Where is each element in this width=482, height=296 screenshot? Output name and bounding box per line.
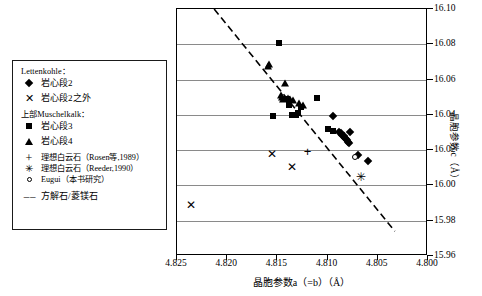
x-axis-tick-label: 4.825 (165, 258, 186, 268)
legend-entry-yanxinduan2: 岩心段2 (13, 77, 166, 89)
y-axis-tick-label: 16.10 (434, 3, 455, 13)
x-axis-tick-label: 4.800 (416, 258, 437, 268)
y-axis-tick (427, 184, 433, 185)
open-circle-icon (21, 177, 37, 182)
legend-group-header-lettenkohle: Lettenkohle： (13, 66, 166, 77)
x-axis-title: 晶胞参数a（=b）（Å） (176, 274, 427, 289)
star-icon: ✳ (21, 165, 37, 173)
chart-legend: Lettenkohle： 岩心段2 ✕ 岩心段2之外 上部Muschelkalk… (12, 60, 167, 230)
legend-label: 理想白云石（Reeder,1990） (37, 163, 138, 174)
legend-label: Eugui（本书研究） (37, 174, 109, 185)
x-axis-tick-label: 4.815 (266, 258, 287, 268)
legend-label: 理想白云石（Rosen等,1989） (37, 152, 144, 163)
y-axis-tick-label: 15.98 (434, 215, 455, 225)
x-mark-icon: ✕ (21, 94, 37, 102)
legend-entry-yanxinduan3: 岩心段3 (13, 120, 166, 132)
y-axis-title: 晶胞参数c（Å） (448, 112, 462, 183)
legend-entry-calcite-magnesite: – – 方解石/菱镁石 (13, 190, 166, 202)
dashed-line-icon: – – (21, 192, 37, 200)
legend-label: 岩心段2之外 (37, 92, 91, 104)
legend-entry-reeder: ✳ 理想白云石（Reeder,1990） (13, 163, 166, 174)
x-axis-tick-label: 4.810 (316, 258, 337, 268)
legend-group-header-muschelkalk: 上部Muschelkalk： (13, 109, 166, 120)
y-axis-tick-label: 16.08 (434, 38, 455, 48)
trendline (177, 9, 428, 256)
square-icon (21, 123, 37, 129)
diamond-icon (21, 80, 37, 86)
y-axis-tick (427, 149, 433, 150)
y-axis-tick (427, 114, 433, 115)
legend-entry-yanxinduan4: 岩心段4 (13, 135, 166, 147)
y-axis-tick (427, 43, 433, 44)
x-axis-tick-label: 4.820 (216, 258, 237, 268)
triangle-icon (21, 138, 37, 145)
plus-icon: + (21, 154, 37, 162)
legend-entry-yanxinduan2-outside: ✕ 岩心段2之外 (13, 92, 166, 104)
y-axis-tick (427, 220, 433, 221)
x-axis-tick-label: 4.805 (366, 258, 387, 268)
legend-label: 方解石/菱镁石 (37, 190, 98, 202)
legend-label: 岩心段3 (37, 120, 73, 132)
chart-page: Lettenkohle： 岩心段2 ✕ 岩心段2之外 上部Muschelkalk… (0, 0, 482, 296)
y-axis-tick (427, 79, 433, 80)
legend-label: 岩心段4 (37, 135, 73, 147)
legend-label: 岩心段2 (37, 77, 73, 89)
y-axis-tick (427, 8, 433, 9)
legend-entry-eugui: Eugui（本书研究） (13, 174, 166, 185)
legend-entry-rosen: + 理想白云石（Rosen等,1989） (13, 152, 166, 163)
plot-area: ✕✕✕+✳ (176, 8, 427, 255)
y-axis-tick-label: 16.06 (434, 74, 455, 84)
